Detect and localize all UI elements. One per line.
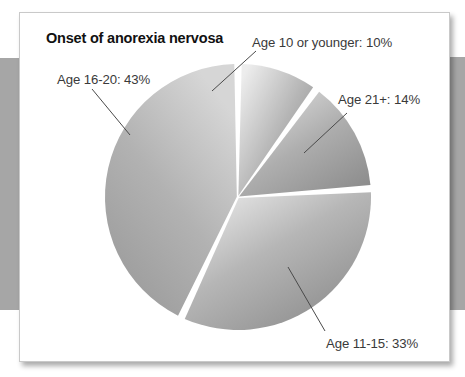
slice-label-age-16-20: Age 16-20: 43% <box>57 72 150 87</box>
pie-chart-area: Onset of anorexia nervosa <box>20 13 451 363</box>
slice-label-age-10-or-younger: Age 10 or younger: 10% <box>252 35 392 50</box>
pie-slices <box>105 64 371 330</box>
leader-line-age-16-20 <box>92 89 130 135</box>
screenshot-stage: Onset of anorexia nervosa <box>0 0 465 377</box>
slice-label-age-11-15: Age 11-15: 33% <box>326 336 418 351</box>
figure-card: Onset of anorexia nervosa <box>19 12 450 362</box>
slice-label-age-21-plus: Age 21+: 14% <box>338 92 420 107</box>
pie-chart-svg <box>20 13 451 363</box>
